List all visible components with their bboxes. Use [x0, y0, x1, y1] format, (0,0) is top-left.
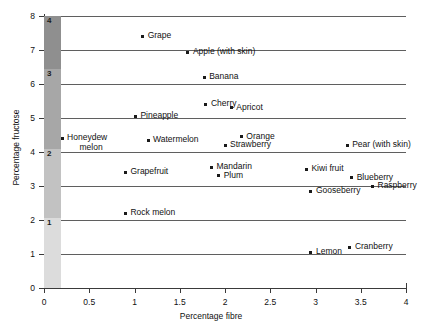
- gridline: [44, 118, 406, 119]
- data-point-marker: [217, 174, 220, 177]
- data-point-label: Rock melon: [130, 208, 175, 218]
- fructose-band-segment: 1: [44, 218, 61, 288]
- data-point-marker: [348, 246, 351, 249]
- x-axis-tick-label: 1.5: [160, 298, 200, 307]
- data-point-label: Gooseberry: [316, 186, 360, 196]
- y-axis-tick: [39, 220, 44, 221]
- x-axis-title: Percentage fibre: [0, 312, 422, 321]
- fructose-band-segment: 3: [44, 69, 61, 149]
- data-point-label: Apricot: [236, 103, 262, 113]
- data-point-marker: [224, 144, 227, 147]
- data-point-label: Raspberry: [378, 181, 417, 191]
- data-point-marker: [147, 139, 150, 142]
- y-axis-tick-label: 1: [9, 250, 35, 259]
- data-point-marker: [186, 51, 189, 54]
- x-axis-tick: [225, 288, 226, 293]
- data-point-label: Cranberry: [355, 242, 393, 252]
- y-axis-tick-label: 6: [9, 80, 35, 89]
- data-point-label: Watermelon: [153, 135, 199, 145]
- data-point-marker: [309, 190, 312, 193]
- x-axis-tick: [135, 288, 136, 293]
- y-axis-tick: [39, 186, 44, 187]
- data-point-label: Kiwi fruit: [311, 164, 343, 174]
- y-axis-tick: [39, 152, 44, 153]
- y-axis-tick: [39, 254, 44, 255]
- x-axis-tick: [316, 288, 317, 293]
- fructose-band-segment-label: 2: [47, 150, 51, 158]
- y-axis-tick-label: 0: [9, 284, 35, 293]
- gridline: [44, 84, 406, 85]
- y-axis-tick-label: 2: [9, 216, 35, 225]
- data-point-marker: [124, 171, 127, 174]
- plot-area: 4321 012345678 00.511.522.533.54 GrapeAp…: [44, 16, 406, 288]
- x-axis-tick-label: 2: [205, 298, 245, 307]
- gridline: [44, 16, 406, 17]
- data-point-label: Strawberry: [230, 140, 271, 150]
- y-axis-tick: [39, 16, 44, 17]
- x-axis-tick-label: 0: [24, 298, 64, 307]
- data-point-label: Grape: [148, 31, 172, 41]
- data-point-label: Apple (with skin): [193, 47, 255, 57]
- data-point-marker: [230, 106, 233, 109]
- x-axis-tick-label: 2.5: [250, 298, 290, 307]
- x-axis-tick-label: 1: [115, 298, 155, 307]
- x-axis-tick: [44, 288, 45, 293]
- data-point-label: Honeydewmelon: [67, 133, 121, 152]
- y-axis-tick: [39, 118, 44, 119]
- data-point-label: Lemon: [316, 247, 342, 257]
- data-point-marker: [134, 115, 137, 118]
- data-point-marker: [305, 168, 308, 171]
- y-axis-tick-label: 4: [9, 148, 35, 157]
- data-point-label: Pear (with skin): [352, 140, 411, 150]
- data-point-marker: [141, 35, 144, 38]
- data-point-marker: [61, 137, 64, 140]
- gridline: [44, 220, 406, 221]
- gridline: [44, 254, 406, 255]
- data-point-marker: [203, 76, 206, 79]
- x-axis-tick-label: 3: [296, 298, 336, 307]
- data-point-label: Plum: [224, 171, 243, 181]
- data-point-marker: [309, 251, 312, 254]
- data-point-marker: [204, 103, 207, 106]
- data-point-marker: [210, 166, 213, 169]
- y-axis-tick-label: 7: [9, 46, 35, 55]
- x-axis-tick: [270, 288, 271, 293]
- data-point-label: Pineapple: [140, 111, 178, 121]
- y-axis-tick-label: 5: [9, 114, 35, 123]
- x-axis-tick: [89, 288, 90, 293]
- data-point-marker: [124, 212, 127, 215]
- fructose-band-segment-label: 1: [47, 219, 51, 227]
- data-point-label: Banana: [209, 72, 238, 82]
- data-point-label-line2: melon: [67, 143, 115, 153]
- fructose-band-segment: 2: [44, 149, 61, 219]
- data-point-label: Grapefruit: [130, 167, 168, 177]
- scatter-plot-figure: Percentage fructose 4321 012345678 00.51…: [0, 0, 422, 335]
- data-point-marker: [350, 176, 353, 179]
- data-point-marker: [346, 144, 349, 147]
- fructose-band-segment-label: 4: [47, 17, 51, 25]
- data-point-marker: [240, 135, 243, 138]
- x-axis-tick: [361, 288, 362, 293]
- y-axis-tick-label: 8: [9, 12, 35, 21]
- y-axis-tick: [39, 84, 44, 85]
- fructose-band-segment: 4: [44, 16, 61, 69]
- data-point-marker: [371, 185, 374, 188]
- y-axis-tick-label: 3: [9, 182, 35, 191]
- x-axis-tick: [180, 288, 181, 293]
- y-axis-tick: [39, 50, 44, 51]
- x-axis-tick: [406, 288, 407, 293]
- x-axis-tick-label: 0.5: [69, 298, 109, 307]
- fructose-band-segment-label: 3: [47, 70, 51, 78]
- x-axis-tick-label: 4: [386, 298, 422, 307]
- fructose-category-band: 4321: [44, 16, 61, 288]
- x-axis-tick-label: 3.5: [341, 298, 381, 307]
